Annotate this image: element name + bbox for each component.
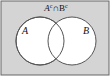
set-b-label: B xyxy=(83,25,89,36)
set-a-label: A xyxy=(21,25,29,36)
venn-diagram: Ac∩Bc A B xyxy=(0,0,111,77)
diagram-title: Ac∩Bc xyxy=(43,3,68,13)
